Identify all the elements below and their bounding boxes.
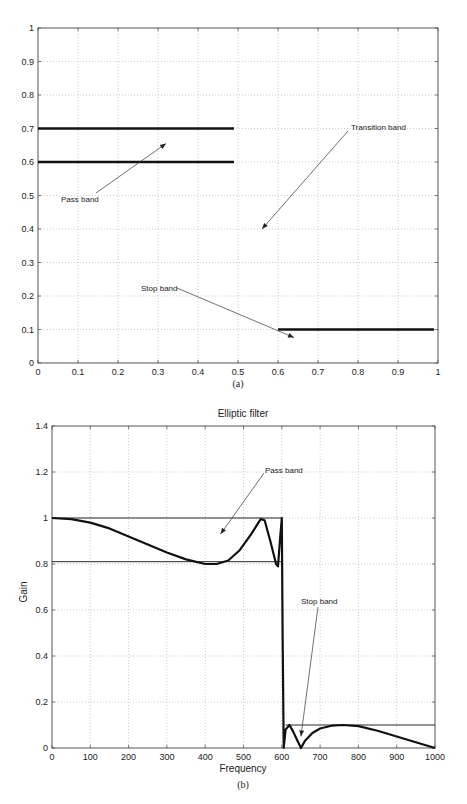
x-tick-label: 900 <box>389 752 404 762</box>
y-tick-label: 0.3 <box>21 258 34 268</box>
annotation-arrow <box>301 607 318 737</box>
annotation-arrow <box>177 288 294 338</box>
y-tick-label: 0.6 <box>21 157 34 167</box>
x-tick-label: 500 <box>236 752 251 762</box>
chart-a: 00.10.20.30.40.50.60.70.80.9100.10.20.30… <box>21 23 440 390</box>
annotation-label: Stop band <box>141 284 177 293</box>
annotation-label: Pass band <box>265 466 303 475</box>
x-tick-label: 0.2 <box>112 367 125 377</box>
annotation-arrow <box>96 144 166 193</box>
figure: 00.10.20.30.40.50.60.70.80.9100.10.20.30… <box>0 0 467 804</box>
annotation-label: Pass band <box>61 195 99 204</box>
x-tick-label: 0.3 <box>152 367 165 377</box>
y-tick-label: 1 <box>29 23 34 33</box>
arrowhead-icon <box>288 333 294 338</box>
chart-b: Elliptic filter 010020030040050060070080… <box>18 408 445 791</box>
y-tick-label: 1 <box>43 513 48 523</box>
chart-b-annotations: Pass bandStop band <box>221 466 338 737</box>
x-tick-label: 0.1 <box>72 367 85 377</box>
chart-a-caption: (a) <box>232 378 243 390</box>
chart-b-xlabel: Frequency <box>219 763 266 774</box>
y-tick-label: 0.2 <box>35 697 48 707</box>
x-tick-label: 0.6 <box>272 367 285 377</box>
y-tick-label: 0.8 <box>35 559 48 569</box>
x-tick-label: 0.4 <box>192 367 205 377</box>
arrowhead-icon <box>221 528 226 534</box>
x-tick-label: 700 <box>313 752 328 762</box>
y-tick-label: 0.9 <box>21 57 34 67</box>
chart-b-ylabel: Gain <box>18 581 29 602</box>
x-tick-label: 1000 <box>425 752 445 762</box>
annotation-label: Transition band <box>351 123 406 132</box>
arrowhead-icon <box>299 730 304 736</box>
y-tick-label: 1.2 <box>35 467 48 477</box>
y-tick-label: 0 <box>43 743 48 753</box>
y-tick-label: 0 <box>29 358 34 368</box>
annotation-arrow <box>262 131 348 229</box>
arrowhead-icon <box>160 144 166 149</box>
x-tick-label: 0.7 <box>312 367 325 377</box>
y-tick-label: 0.6 <box>35 605 48 615</box>
y-tick-label: 0.8 <box>21 90 34 100</box>
y-tick-label: 0.4 <box>35 651 48 661</box>
y-tick-label: 0.4 <box>21 224 34 234</box>
x-tick-label: 800 <box>351 752 366 762</box>
x-tick-label: 300 <box>159 752 174 762</box>
x-tick-label: 600 <box>274 752 289 762</box>
annotation-label: Stop band <box>301 597 337 606</box>
chart-a-annotations: Pass bandTransition bandStop band <box>61 123 406 338</box>
x-tick-label: 200 <box>121 752 136 762</box>
x-tick-label: 0 <box>49 752 54 762</box>
x-tick-label: 0 <box>35 367 40 377</box>
chart-b-title: Elliptic filter <box>218 408 269 419</box>
y-tick-label: 0.7 <box>21 124 34 134</box>
x-tick-label: 1 <box>435 367 440 377</box>
chart-b-ticks: 0100200300400500600700800900100000.20.40… <box>35 421 445 762</box>
x-tick-label: 100 <box>83 752 98 762</box>
y-tick-label: 1.4 <box>35 421 48 431</box>
y-tick-label: 0.2 <box>21 291 34 301</box>
x-tick-label: 0.9 <box>392 367 405 377</box>
x-tick-label: 0.5 <box>232 367 245 377</box>
x-tick-label: 400 <box>198 752 213 762</box>
chart-b-grid <box>52 426 435 748</box>
x-tick-label: 0.8 <box>352 367 365 377</box>
y-tick-label: 0.5 <box>21 191 34 201</box>
chart-b-caption: (b) <box>237 779 249 791</box>
y-tick-label: 0.1 <box>21 325 34 335</box>
